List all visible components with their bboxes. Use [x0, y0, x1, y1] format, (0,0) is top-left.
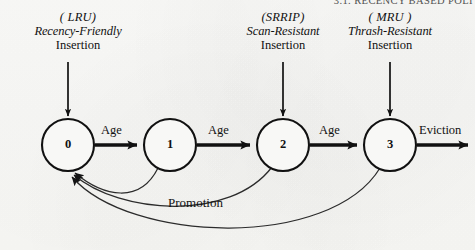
state-node-label-2: 2 — [273, 137, 293, 152]
diagram-page: 3.1. RECENCY BASED POLI ( LRU) Recency-F… — [0, 0, 475, 250]
transition-label-eviction: Eviction — [419, 123, 461, 138]
state-node-label-0: 0 — [58, 137, 78, 152]
transition-label-age-2-3: Age — [319, 123, 340, 138]
transition-label-age-1-2: Age — [208, 123, 229, 138]
promotion-arrow-1-0 — [75, 168, 158, 193]
promotion-label: Promotion — [168, 195, 223, 211]
state-node-label-3: 3 — [380, 137, 400, 152]
transition-label-age-0-1: Age — [101, 123, 122, 138]
state-machine-canvas — [0, 0, 475, 250]
state-node-label-1: 1 — [160, 137, 180, 152]
